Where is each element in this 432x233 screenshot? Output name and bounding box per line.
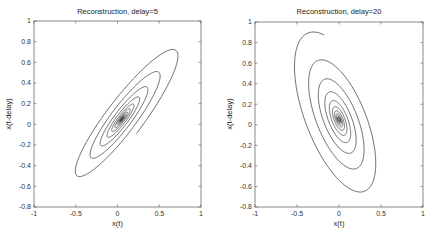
plot-title: Reconstruction, delay=5 [77,7,158,16]
x-tick-label: 0 [337,210,341,217]
trajectory-line [75,49,178,176]
y-tick-label: 0 [248,121,252,128]
plot-title: Reconstruction, delay=20 [297,7,382,16]
y-tick-label: 0.8 [21,38,31,45]
x-tick-label: -0.5 [291,210,303,217]
y-tick-label: -0.2 [19,141,31,148]
x-tick-label: -1 [31,210,37,217]
y-tick-label: 0.4 [21,79,31,86]
y-tick-label: -0.8 [240,203,252,210]
x-tick-label: 0.5 [376,210,386,217]
y-tick-label: -0.8 [19,203,31,210]
y-tick-label: -0.2 [240,142,252,149]
x-tick-label: 1 [421,210,425,217]
x-tick-label: -1 [252,210,258,217]
plot-delay-20: Reconstruction, delay=20 x(t) x(t-delay)… [225,7,425,228]
y-tick-label: -0.6 [19,183,31,190]
y-tick-label: 0.6 [21,59,31,66]
y-tick-label: -0.6 [240,183,252,190]
x-tick-label: 1 [199,210,203,217]
y-tick-label: -0.4 [240,162,252,169]
y-tick-label: -0.4 [19,162,31,169]
y-tick-label: 0.2 [242,101,252,108]
y-tick-label: 1 [248,18,252,25]
y-tick-label: 0.8 [242,39,252,46]
y-tick-label: 1 [27,17,31,24]
y-tick-label: 0.2 [21,100,31,107]
x-tick-label: -0.5 [70,210,82,217]
y-tick-label: 0 [27,121,31,128]
x-tick-label: 0.5 [154,210,164,217]
plot-delay-5: Reconstruction, delay=5 x(t) x(t-delay) … [4,7,203,228]
x-axis-label: x(t) [112,219,123,228]
x-tick-label: 0 [116,210,120,217]
y-axis-label: x(t-delay) [4,98,13,130]
y-tick-label: 0.4 [242,80,252,87]
y-tick-label: 0.6 [242,60,252,67]
figure: Reconstruction, delay=5 x(t) x(t-delay) … [0,0,432,233]
x-axis-label: x(t) [334,219,345,228]
y-axis-label: x(t-delay) [225,98,234,130]
axes-box [34,21,201,207]
trajectory-line [295,32,376,192]
